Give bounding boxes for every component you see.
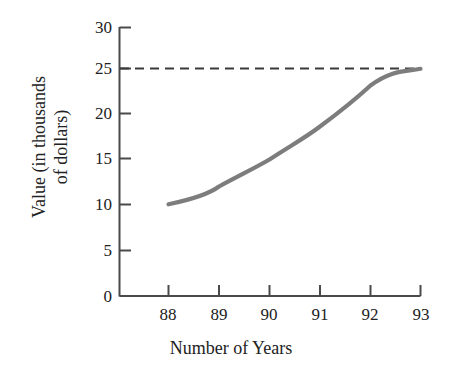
x-axis-ticks	[169, 285, 421, 296]
x-tick-label-88: 88	[148, 306, 188, 323]
x-tick-label-91: 91	[300, 306, 340, 323]
x-tick-label-89: 89	[199, 306, 239, 323]
y-tick-label-20: 20	[78, 105, 112, 122]
y-axis-title: Value (in thousands of dollars)	[28, 27, 72, 267]
y-axis-title-line2: of dollars)	[50, 27, 72, 267]
x-tick-label-93: 93	[401, 306, 441, 323]
chart-figure: 30 25 20 15 10 5 0 88 89 90 91 92 93 Num…	[0, 0, 462, 372]
x-tick-label-92: 92	[350, 306, 390, 323]
y-tick-label-5: 5	[78, 242, 112, 259]
y-tick-label-25: 25	[78, 60, 112, 77]
y-tick-label-15: 15	[78, 150, 112, 167]
value-curve	[169, 69, 421, 205]
y-axis-ticks	[120, 28, 132, 251]
y-axis-title-line1: Value (in thousands	[28, 27, 50, 267]
y-tick-label-10: 10	[78, 196, 112, 213]
y-tick-label-0: 0	[78, 288, 112, 305]
x-tick-label-90: 90	[249, 306, 289, 323]
x-axis-title: Number of Years	[0, 338, 462, 359]
y-tick-label-30: 30	[78, 19, 112, 36]
